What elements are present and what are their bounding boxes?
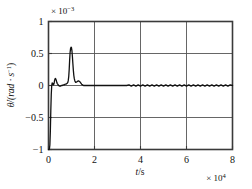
y-tick-label: −1 [33, 144, 44, 155]
chart-background [0, 0, 252, 189]
y-tick-label: 0 [39, 80, 44, 91]
line-chart: 02468 −1−0.500.51 × 10−3 × 104 t/s θ̇/(r… [0, 0, 252, 189]
x-axis-title: t/s [136, 167, 145, 177]
x-tick-label: 4 [138, 154, 143, 165]
y-tick-label: −0.5 [25, 112, 43, 123]
x-tick-label: 0 [46, 154, 51, 165]
x-tick-label: 2 [92, 154, 97, 165]
figure-container: 02468 −1−0.500.51 × 10−3 × 104 t/s θ̇/(r… [0, 0, 252, 189]
y-tick-label: 1 [39, 16, 44, 27]
x-tick-label: 6 [184, 154, 189, 165]
y-tick-label: 0.5 [31, 48, 44, 59]
x-tick-label: 8 [230, 154, 235, 165]
